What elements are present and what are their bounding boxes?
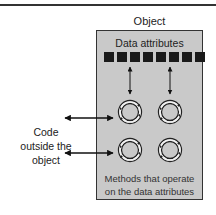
method-icon xyxy=(159,139,182,162)
method-icon xyxy=(119,139,142,162)
method-icon xyxy=(119,101,142,124)
diagram-overlay xyxy=(0,0,216,215)
method-icon xyxy=(159,101,182,124)
